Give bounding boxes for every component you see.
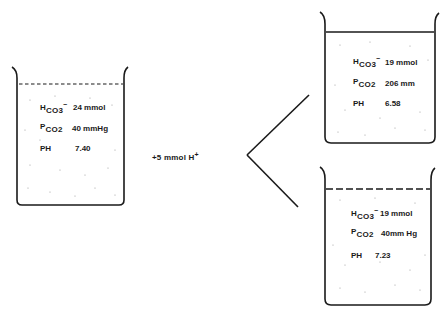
closed-ph-label: PH: [353, 99, 364, 108]
open-ph-label: PH: [351, 251, 362, 260]
branch-lines: [247, 95, 309, 207]
closed-ph-value: 6.58: [385, 99, 401, 108]
initial-beaker: [12, 67, 128, 205]
diagram-canvas: [0, 0, 445, 315]
open-pco2-label: PCO2: [351, 227, 374, 239]
initial-ph-value: 7.40: [75, 144, 91, 153]
acid-addition-label: +5 mmol H+: [152, 151, 199, 162]
closed-hco3-label: HCO3−: [353, 55, 380, 69]
closed-hco3-value: 19 mmol: [385, 58, 417, 67]
initial-ph-label: PH: [40, 144, 51, 153]
open-system-beaker: [320, 167, 435, 305]
open-ph-value: 7.23: [375, 251, 391, 260]
initial-pco2-value: 40 mmHg: [72, 124, 108, 133]
closed-pco2-label: PCO2: [353, 77, 376, 89]
open-hco3-value: 19 mmol: [380, 209, 412, 218]
closed-pco2-value: 206 mm: [385, 79, 415, 88]
initial-hco3-value: 24 mmol: [73, 103, 105, 112]
initial-hco3-label: HCO3−: [40, 101, 67, 115]
open-hco3-label: HCO3−: [351, 207, 378, 221]
open-pco2-value: 40mm Hg: [381, 229, 417, 238]
initial-pco2-label: PCO2: [40, 122, 63, 134]
